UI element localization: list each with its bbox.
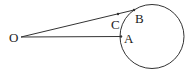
point-a [120,35,122,37]
geometry-diagram: O C B A [0,0,192,75]
label-a: A [124,31,134,46]
point-c [117,13,119,15]
label-o: O [9,30,18,45]
segment-oa [21,37,121,38]
label-b: B [135,11,144,26]
label-c: C [111,17,120,32]
